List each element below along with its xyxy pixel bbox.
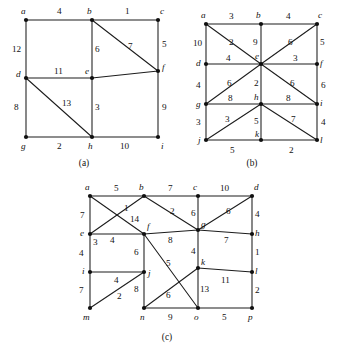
- vertex-b-j: [204, 138, 208, 142]
- vertex-label-b-i: i: [320, 98, 323, 108]
- edge-weight-c-m-j: 2: [117, 291, 122, 301]
- edge-weight-c-i-j: 4: [114, 275, 119, 285]
- vertex-b-c: [315, 22, 319, 26]
- vertex-label-d: d: [16, 69, 21, 79]
- vertex-label-c-h: h: [255, 228, 260, 238]
- vertex-b-a: [204, 22, 208, 26]
- edge-weight-b-e-h: 2: [254, 78, 259, 88]
- edge-weight-b-g-j: 3: [196, 117, 201, 127]
- vertex-label-b-g: g: [196, 99, 201, 109]
- vertex-label-c-c: c: [193, 182, 197, 192]
- edge-weight-c-l-p: 2: [255, 285, 260, 295]
- edge-weight-c-k-o: 13: [200, 284, 210, 294]
- edge-weight-c-k-l: 11: [221, 275, 230, 285]
- edge-weight-b-j-h: 3: [225, 114, 230, 124]
- edge-weight-b-a-d: 10: [193, 38, 203, 48]
- edge-weight-b-b-c: 4: [286, 11, 291, 21]
- edge-weight-c-d-g: 6: [226, 206, 231, 216]
- vertex-label-c-k: k: [201, 257, 206, 267]
- vertex-label-c-f: f: [147, 221, 151, 231]
- edge-weight-c-b-g: 2: [170, 206, 175, 216]
- vertex-label-b-j: j: [197, 135, 201, 145]
- vertex-a: [24, 18, 28, 22]
- edge-weight-b-e-f: 3: [293, 53, 298, 63]
- vertex-c-m: [88, 306, 92, 310]
- edge-weight-b-a-b: 3: [229, 11, 234, 21]
- edge-weight-c-b-c: 7: [168, 183, 173, 193]
- figure-canvas: a b c d e f g h i 4 1 12 6 5 7 11 8 3 9: [0, 0, 338, 349]
- vertex-c-p: [250, 306, 254, 310]
- vertex-label-a: a: [21, 6, 26, 16]
- vertex-label-c-i: i: [82, 266, 85, 276]
- vertex-c-o: [196, 306, 200, 310]
- vertex-label-f: f: [162, 62, 166, 72]
- edge-weight-c-b-e: 1: [124, 203, 129, 213]
- vertex-label-c-e: e: [80, 228, 84, 238]
- vertex-label-b-d: d: [196, 58, 201, 68]
- edge-weight-b-k-l: 2: [289, 145, 294, 155]
- vertex-c-l: [250, 270, 254, 274]
- vertex-b-e: [259, 62, 263, 66]
- edge-weight-b-h-k: 5: [254, 116, 259, 126]
- edge-weight-c-a-b: 5: [114, 183, 119, 193]
- edge-b-j-h: [206, 104, 261, 140]
- vertex-label-c-o: o: [194, 312, 199, 322]
- vertex-label-c: c: [160, 6, 164, 16]
- edge-weight-f-i: 9: [162, 102, 167, 112]
- edge-weight-b-g-h: 8: [228, 93, 233, 103]
- edge-c-f-g: [144, 230, 198, 234]
- edge-weight-c-c-d: 10: [220, 183, 230, 193]
- edge-d-h: [26, 78, 92, 137]
- edge-weight-c-f-g: 8: [168, 235, 173, 245]
- vertex-label-b-a: a: [201, 10, 206, 20]
- vertex-c-j: [142, 270, 146, 274]
- edge-weight-c-a-f: 14: [130, 214, 140, 224]
- vertex-label-c-a: a: [85, 182, 90, 192]
- vertex-label-b-e: e: [255, 51, 259, 61]
- vertex-b-d: [204, 62, 208, 66]
- edge-weight-c-h-l: 1: [255, 247, 260, 257]
- vertex-c-f: [142, 232, 146, 236]
- edge-weight-c-o-p: 5: [222, 312, 227, 322]
- edge-c-f-o: [144, 234, 198, 308]
- vertex-c-b: [142, 194, 146, 198]
- vertex-d: [24, 76, 28, 80]
- edge-weight-c-f: 5: [162, 39, 167, 49]
- edge-b-h-l: [261, 104, 317, 140]
- edge-weight-e-h: 3: [95, 102, 100, 112]
- edge-weight-b-e-i: 6: [290, 78, 295, 88]
- vertex-label-i: i: [161, 141, 164, 151]
- edge-weight-b-h-i: 8: [286, 93, 291, 103]
- panel-caption-b: (b): [247, 158, 258, 169]
- vertex-c-i: [88, 270, 92, 274]
- edge-weight-c-j-n: 8: [134, 284, 139, 294]
- vertex-label-c-g: g: [201, 219, 206, 229]
- panel-caption-a: (a): [79, 158, 89, 169]
- vertex-i: [156, 135, 160, 139]
- edge-weight-c-i-m: 7: [79, 285, 84, 295]
- edge-weight-b-c-e: 6: [288, 37, 293, 47]
- edge-weight-c-d-h: 4: [255, 209, 260, 219]
- edge-b-g-e: [206, 64, 261, 104]
- panel-caption-c: (c): [162, 332, 172, 343]
- edge-weight-b-j-k: 5: [230, 145, 235, 155]
- vertex-label-g: g: [21, 141, 26, 151]
- vertex-label-b-b: b: [256, 10, 261, 20]
- vertex-label-b-h: h: [254, 92, 259, 102]
- edge-weight-c-n-k: 6: [166, 290, 171, 300]
- vertex-label-c-d: d: [254, 182, 259, 192]
- vertex-b-b: [259, 22, 263, 26]
- vertex-b-h: [259, 102, 263, 106]
- vertex-c-e: [88, 232, 92, 236]
- vertex-b-f: [315, 62, 319, 66]
- edge-weight-b-d-g: 4: [196, 80, 201, 90]
- edge-weight-c-f-j: 6: [134, 247, 139, 257]
- edge-b-f: [92, 20, 158, 71]
- edge-weight-c-g-h: 7: [224, 235, 229, 245]
- vertex-g: [24, 135, 28, 139]
- edge-weight-b-d-e: 4: [226, 53, 231, 63]
- edge-weight-a-b: 4: [57, 6, 62, 16]
- edge-weight-b-c-f: 5: [320, 37, 325, 47]
- vertex-label-b: b: [87, 6, 92, 16]
- edge-c-n-k: [144, 268, 198, 308]
